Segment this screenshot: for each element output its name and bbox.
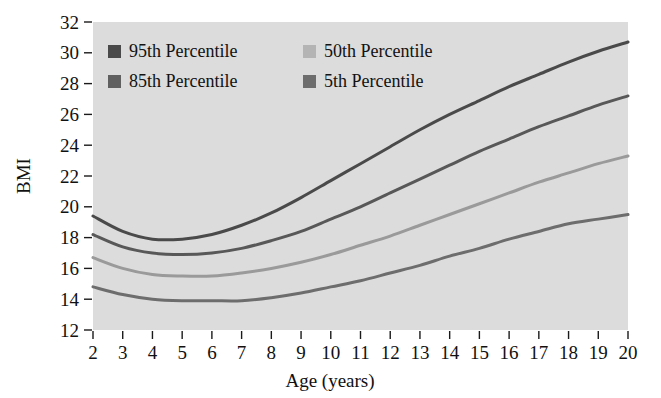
- x-tick-label: 18: [559, 342, 578, 363]
- x-tick-label: 12: [381, 342, 400, 363]
- legend-label: 5th Percentile: [324, 71, 423, 91]
- y-axis-ticks: [84, 22, 92, 330]
- y-tick-label: 20: [60, 196, 79, 217]
- x-tick-label: 20: [619, 342, 638, 363]
- legend-swatch: [303, 45, 316, 58]
- y-tick-label: 14: [60, 289, 80, 310]
- plot-area-background: [93, 22, 628, 330]
- x-tick-label: 2: [88, 342, 98, 363]
- x-tick-label: 8: [267, 342, 277, 363]
- x-axis-tick-labels: 234567891011121314151617181920: [88, 342, 637, 363]
- x-tick-label: 7: [237, 342, 247, 363]
- legend-swatch: [303, 75, 316, 88]
- x-tick-label: 5: [177, 342, 187, 363]
- legend-label: 95th Percentile: [129, 41, 237, 61]
- legend-label: 50th Percentile: [324, 41, 432, 61]
- y-axis-tick-labels: 1214161820222426283032: [60, 12, 80, 341]
- bmi-percentile-chart: 1214161820222426283032 23456789101112131…: [0, 0, 661, 398]
- y-axis-title: BMI: [13, 158, 34, 194]
- x-tick-label: 10: [321, 342, 340, 363]
- chart-canvas: 1214161820222426283032 23456789101112131…: [0, 0, 661, 398]
- x-tick-label: 9: [296, 342, 306, 363]
- x-axis-ticks: [93, 331, 628, 339]
- legend-swatch: [108, 45, 121, 58]
- y-tick-label: 30: [60, 42, 79, 63]
- x-tick-label: 16: [500, 342, 519, 363]
- legend-label: 85th Percentile: [129, 71, 237, 91]
- y-tick-label: 28: [60, 73, 79, 94]
- x-axis-title: Age (years): [285, 370, 374, 392]
- y-tick-label: 22: [60, 166, 79, 187]
- y-tick-label: 32: [60, 12, 79, 33]
- y-tick-label: 16: [60, 258, 79, 279]
- x-tick-label: 3: [118, 342, 128, 363]
- y-tick-label: 18: [60, 227, 79, 248]
- x-tick-label: 19: [589, 342, 608, 363]
- x-tick-label: 14: [440, 342, 460, 363]
- x-tick-label: 17: [529, 342, 548, 363]
- x-tick-label: 13: [410, 342, 429, 363]
- y-tick-label: 26: [60, 104, 79, 125]
- y-tick-label: 24: [60, 135, 80, 156]
- x-tick-label: 11: [351, 342, 369, 363]
- x-tick-label: 6: [207, 342, 217, 363]
- x-tick-label: 15: [470, 342, 489, 363]
- y-tick-label: 12: [60, 320, 79, 341]
- legend-swatch: [108, 75, 121, 88]
- x-tick-label: 4: [148, 342, 158, 363]
